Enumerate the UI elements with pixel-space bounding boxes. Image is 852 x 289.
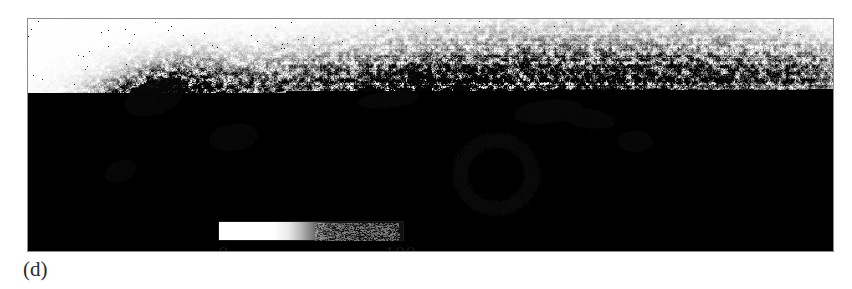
scalebar-tick-labels: 0 100 — [218, 242, 416, 252]
intensity-scalebar: 0 100 — [218, 221, 418, 252]
scalebar-grain-texture — [220, 223, 404, 241]
micrograph-image — [28, 19, 833, 251]
scalebar-gradient-swatch — [218, 221, 404, 241]
micrograph-frame: 0 100 — [27, 18, 834, 252]
scalebar-max-label: 100 — [385, 242, 417, 252]
panel-label: (d) — [23, 256, 48, 282]
scalebar-min-label: 0 — [218, 242, 229, 252]
figure-panel: 0 100 (d) — [0, 0, 852, 289]
